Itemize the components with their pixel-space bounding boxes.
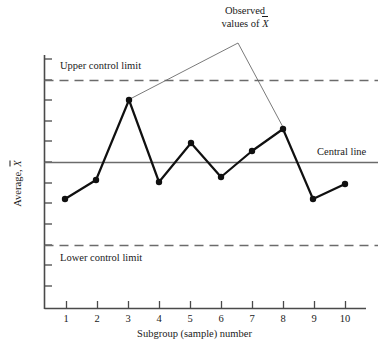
x-bar-symbol: X [12, 160, 23, 166]
data-point [310, 196, 316, 202]
observed-values-markers [62, 97, 348, 202]
x-tick-label: 5 [178, 313, 202, 324]
data-point [342, 181, 348, 187]
lower-control-limit-label: Lower control limit [60, 252, 142, 263]
observed-values-line [65, 100, 345, 199]
x-axis-title: Subgroup (sample) number [0, 328, 389, 339]
data-point [126, 97, 132, 103]
x-tick-label: 6 [209, 313, 233, 324]
data-point [62, 196, 68, 202]
data-point [249, 148, 255, 154]
x-tick-label: 4 [147, 313, 171, 324]
chart-canvas [0, 0, 389, 356]
x-tick-label: 3 [116, 313, 140, 324]
y-axis-ticks [45, 59, 53, 286]
leader-line-to-point-8 [238, 43, 284, 129]
x-tick-label: 10 [333, 313, 357, 324]
data-point [218, 174, 224, 180]
x-axis-ticks [67, 301, 346, 308]
x-tick-label: 2 [85, 313, 109, 324]
data-point [280, 126, 286, 132]
observed-values-callout-label: Observed values of X [186, 5, 304, 30]
central-line-label: Central line [317, 146, 366, 157]
x-bar-symbol: X [262, 18, 268, 31]
control-chart-figure: Upper control limit Lower control limit … [0, 0, 389, 356]
y-axis-title: Average, X [12, 134, 23, 234]
data-point [156, 179, 162, 185]
callout-line-2-prefix: values of [221, 18, 262, 29]
x-tick-label: 8 [271, 313, 295, 324]
callout-line-1: Observed [225, 5, 265, 16]
x-tick-label: 1 [54, 313, 78, 324]
x-tick-label: 9 [302, 313, 326, 324]
data-point [93, 177, 99, 183]
upper-control-limit-label: Upper control limit [60, 60, 141, 71]
x-tick-label: 7 [240, 313, 264, 324]
data-point [188, 140, 194, 146]
callout-leader-lines [130, 43, 284, 129]
y-axis-title-prefix: Average, [12, 167, 23, 207]
leader-line-to-point-3 [130, 43, 238, 99]
